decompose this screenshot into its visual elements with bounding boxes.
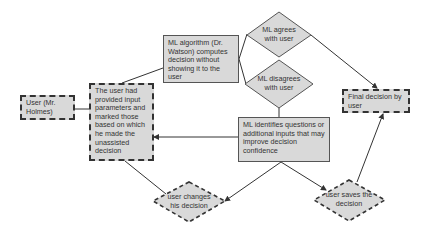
edge-params-to-ml <box>122 68 163 83</box>
edge-identifies-to-saves <box>281 162 326 190</box>
ml-identifies-label: ML identifies questions or additional in… <box>243 120 325 155</box>
user-params-label: The user had provided input parameters a… <box>95 86 145 155</box>
user-node: User (Mr. Holmes) <box>20 95 75 120</box>
user-params-node: The user had provided input parameters a… <box>89 83 154 161</box>
edge-agrees-to-final <box>311 35 377 88</box>
edge-params-to-changes <box>125 161 166 194</box>
ml-algorithm-label: ML algorithm (Dr. Watson) computes decis… <box>168 38 228 81</box>
edge-saves-to-final <box>357 114 383 182</box>
edge-ml-to-disagrees <box>239 59 246 84</box>
user-changes-label: user changes his decision <box>164 188 214 216</box>
ml-agrees-label: ML agrees with user <box>256 20 302 50</box>
ml-identifies-node: ML identifies questions or additional in… <box>238 117 330 162</box>
edge-ml-to-agrees <box>239 34 247 59</box>
user-node-label: User (Mr. Holmes) <box>26 98 56 116</box>
edge-identifies-to-changes <box>225 162 281 201</box>
user-saves-label: user saves the decision <box>324 186 374 214</box>
ml-algorithm-node: ML algorithm (Dr. Watson) computes decis… <box>163 35 239 83</box>
final-decision-node: Final decision by user <box>342 89 410 113</box>
ml-disagrees-label: ML disagrees with user <box>254 69 304 99</box>
final-decision-label: Final decision by user <box>348 92 402 110</box>
